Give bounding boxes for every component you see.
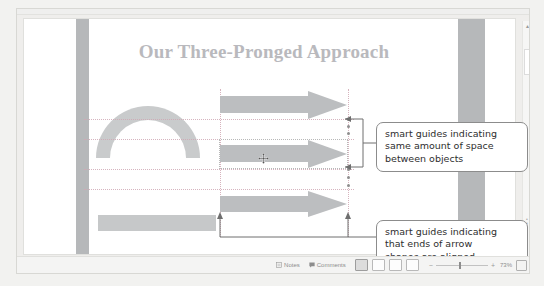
zoom-slider[interactable]: − + <box>429 262 495 269</box>
block-arc-shape[interactable] <box>96 106 200 158</box>
rectangle-shape[interactable] <box>98 215 216 231</box>
selection-handle[interactable] <box>347 168 350 171</box>
selection-handle[interactable] <box>347 132 350 135</box>
zoom-in-button[interactable]: + <box>491 262 495 269</box>
zoom-out-button[interactable]: − <box>429 262 433 269</box>
move-cursor-icon <box>258 150 269 161</box>
slide-title[interactable]: Our Three-Pronged Approach <box>84 41 444 63</box>
callout-ends-line-1: smart guides indicating <box>385 226 519 238</box>
arrow-2-selection-box <box>219 139 348 169</box>
selection-handle[interactable] <box>347 125 350 128</box>
arrow-head-icon <box>308 191 347 217</box>
view-mode-buttons <box>355 259 419 271</box>
scrollbar-thumb[interactable] <box>524 49 530 75</box>
callout-spacing-line-2: same amount of space <box>385 140 519 152</box>
arrow-shape-3[interactable] <box>220 191 347 217</box>
callout-ends-line-2: that ends of arrow <box>385 238 519 250</box>
comment-bubble-icon <box>309 262 315 268</box>
zoom-slider-track[interactable] <box>436 265 488 266</box>
comments-button[interactable]: Comments <box>309 262 346 268</box>
reading-view-button[interactable] <box>389 259 402 271</box>
smart-guide-horizontal-4 <box>84 189 354 190</box>
arrow-shaft <box>220 196 308 212</box>
smart-guide-horizontal-3 <box>84 169 354 170</box>
callout-spacing-line-3: between objects <box>385 153 519 165</box>
smart-guide-horizontal-1 <box>84 119 354 120</box>
selection-handle[interactable] <box>347 118 350 121</box>
status-bar: Notes Comments − + 73% <box>17 256 530 273</box>
zoom-slider-thumb[interactable] <box>459 262 461 269</box>
notes-button[interactable]: Notes <box>276 262 300 268</box>
fit-slide-to-window-button[interactable] <box>516 260 527 271</box>
callout-spacing-line-1: smart guides indicating <box>385 128 519 140</box>
callout-spacing: smart guides indicating same amount of s… <box>376 122 528 172</box>
presentation-window: Our Three-Pronged Approach <box>16 8 530 274</box>
scroll-up-arrow-icon[interactable]: ▲ <box>524 23 530 30</box>
notes-icon <box>276 262 282 268</box>
arrow-shaft <box>220 96 308 113</box>
notes-label: Notes <box>284 262 300 268</box>
smart-guide-vertical-right <box>348 89 349 237</box>
selection-handle[interactable] <box>347 184 350 187</box>
slide-sorter-view-button[interactable] <box>372 259 385 271</box>
arrow-shape-1[interactable] <box>220 91 347 119</box>
selection-handle[interactable] <box>347 176 350 179</box>
comments-label: Comments <box>317 262 346 268</box>
arrow-head-icon <box>308 91 347 119</box>
scanned-page: Our Three-Pronged Approach <box>0 0 544 286</box>
slide-show-view-button[interactable] <box>406 259 419 271</box>
zoom-level-label[interactable]: 73% <box>500 262 512 268</box>
normal-view-button[interactable] <box>355 259 368 271</box>
